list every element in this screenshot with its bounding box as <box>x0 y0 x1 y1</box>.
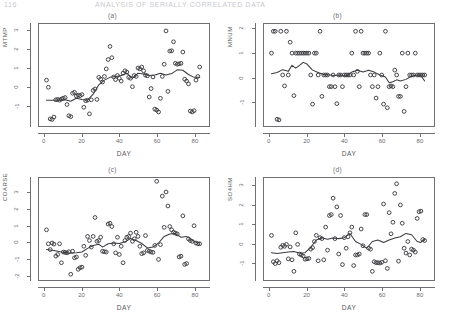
panel-c-x-tick-mark <box>119 287 120 291</box>
data-point-marker <box>58 242 62 246</box>
panel-a-y-tick-label: 0 <box>13 85 19 88</box>
panel-a-x-tick-label: 0 <box>35 138 53 144</box>
panel-c-y-tick-mark <box>27 242 30 243</box>
panel-b-x-axis-line <box>263 133 435 134</box>
data-point-marker <box>160 194 164 198</box>
panel-c-tag: (c) <box>0 166 225 173</box>
panel-b-x-tick-mark <box>382 133 383 137</box>
data-point-marker <box>344 246 348 250</box>
data-point-marker <box>316 259 320 263</box>
data-point-marker <box>45 78 49 82</box>
data-point-marker <box>285 29 289 33</box>
data-point-marker <box>370 269 374 273</box>
data-point-marker <box>106 58 110 62</box>
data-point-marker <box>322 258 326 262</box>
data-point-marker <box>142 69 146 73</box>
data-point-marker <box>350 51 354 55</box>
data-point-marker <box>270 233 274 237</box>
panel-c-y-tick-mark <box>27 259 30 260</box>
data-point-marker <box>382 102 386 106</box>
panel-b-y-tick-label: 2 <box>238 26 244 29</box>
data-point-marker <box>136 235 140 239</box>
panel-c-x-tick-label: 0 <box>35 292 53 298</box>
data-point-marker <box>159 243 163 247</box>
data-point-marker <box>359 227 363 231</box>
data-point-marker <box>311 102 315 106</box>
panel-b-x-tick-label: 60 <box>373 138 391 144</box>
panel-d-x-tick-mark <box>269 287 270 291</box>
data-point-marker <box>397 259 401 263</box>
panel-d-y-tick-mark <box>252 224 255 225</box>
panel-c-y-tick-label: 1 <box>13 224 19 227</box>
panel-d-y-tick-label: 2 <box>238 203 244 206</box>
panel-b: (b) MNUM DAY -1012020406080 <box>225 12 450 168</box>
data-point-marker <box>286 73 290 77</box>
data-point-marker <box>378 51 382 55</box>
data-point-marker <box>86 235 90 239</box>
data-point-marker <box>402 246 406 250</box>
data-point-marker <box>318 29 322 33</box>
panel-b-data-points <box>264 24 434 126</box>
panel-a-y-tick-label: -1 <box>14 103 20 108</box>
data-point-marker <box>164 190 168 194</box>
panel-a-y-axis-label: MTMP <box>2 27 8 47</box>
panel-c-x-tick-mark <box>44 287 45 291</box>
data-point-marker <box>71 249 75 253</box>
data-point-marker <box>402 110 406 114</box>
panel-a-x-tick-mark <box>82 133 83 137</box>
data-point-marker <box>359 29 363 33</box>
panel-a-y-tick-mark <box>27 30 30 31</box>
data-point-marker <box>413 51 417 55</box>
panel-c-x-axis-line <box>38 287 210 288</box>
panel-d-y-tick-mark <box>252 263 255 264</box>
data-point-marker <box>157 258 161 262</box>
panel-d-y-tick-mark <box>252 205 255 206</box>
data-point-marker <box>352 73 356 77</box>
data-point-marker <box>335 205 339 209</box>
panel-c-data-points <box>39 178 209 280</box>
data-point-marker <box>116 235 120 239</box>
data-point-marker <box>400 221 404 225</box>
data-point-marker <box>99 235 103 239</box>
panel-a-x-tick-label: 80 <box>186 138 204 144</box>
panel-c-y-tick-label: 3 <box>13 190 19 193</box>
data-point-marker <box>341 85 345 89</box>
panel-d: (d) SO4HM DAY -10123020406080 <box>225 166 450 322</box>
panel-b-y-axis-line <box>255 23 256 127</box>
data-point-marker <box>147 95 151 99</box>
panel-a-plot-area <box>38 23 210 127</box>
panel-d-x-tick-label: 0 <box>260 292 278 298</box>
panel-d-x-tick-label: 80 <box>411 292 429 298</box>
panel-d-x-axis-line <box>263 287 435 288</box>
panel-d-data-points <box>264 178 434 280</box>
data-point-marker <box>391 220 395 224</box>
panel-d-y-axis-line <box>255 177 256 281</box>
panel-d-x-tick-mark <box>420 287 421 291</box>
panel-c-x-tick-label: 40 <box>110 292 128 298</box>
panel-b-x-tick-label: 0 <box>260 138 278 144</box>
panel-b-y-tick-mark <box>252 53 255 54</box>
panel-a-y-tick-label: 2 <box>13 47 19 50</box>
data-point-marker <box>166 90 170 94</box>
data-point-marker <box>406 51 410 55</box>
panel-a-x-axis-label: DAY <box>38 150 210 157</box>
data-point-marker <box>294 231 298 235</box>
data-point-marker <box>288 40 292 44</box>
panel-a-y-tick-mark <box>27 106 30 107</box>
data-point-marker <box>162 225 166 229</box>
panel-c-y-axis-line <box>30 177 31 281</box>
panel-d-y-tick-label: 0 <box>238 242 244 245</box>
data-point-marker <box>82 105 86 109</box>
data-point-marker <box>292 269 296 273</box>
panel-b-x-tick-mark <box>344 133 345 137</box>
panel-a-x-tick-mark <box>195 133 196 137</box>
panel-d-x-tick-mark <box>382 287 383 291</box>
data-point-marker <box>384 29 388 33</box>
panel-d-x-tick-label: 40 <box>335 292 353 298</box>
panel-a-tag: (a) <box>0 12 225 19</box>
panel-c-y-tick-mark <box>27 209 30 210</box>
panel-b-y-tick-label: -1 <box>239 100 245 105</box>
data-point-marker <box>398 203 402 207</box>
panel-b-x-axis-label: DAY <box>263 150 435 157</box>
data-point-marker <box>160 75 164 79</box>
